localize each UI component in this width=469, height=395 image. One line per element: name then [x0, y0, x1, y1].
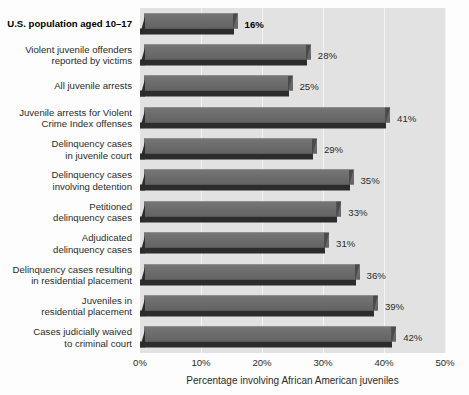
bar-top-face: [144, 139, 317, 154]
bar-row: Juvenile arrests for Violent Crime Index…: [0, 102, 469, 133]
bar-front-face: [140, 342, 392, 348]
x-tick-label: 10%: [191, 357, 210, 368]
x-axis-title: Percentage involving African American ju…: [140, 375, 445, 386]
bar-value-label: 25%: [300, 81, 319, 92]
category-label: All juvenile arrests: [0, 81, 132, 92]
bar-value-label: 31%: [336, 238, 355, 249]
bar: [140, 107, 390, 128]
bar-value-label: 35%: [361, 175, 380, 186]
category-label: Delinquency cases involving detention: [0, 169, 132, 192]
category-label: Adjudicated delinquency cases: [0, 232, 132, 255]
x-tick-label: 30%: [313, 357, 332, 368]
bar: [140, 139, 317, 160]
category-label: Violent juvenile offenders reported by v…: [0, 44, 132, 67]
bar: [140, 327, 396, 348]
category-label: Delinquency cases resulting in residenti…: [0, 263, 132, 286]
bar-top-face: [144, 233, 329, 248]
category-label: Juvenile arrests for Violent Crime Index…: [0, 106, 132, 129]
bar: [140, 45, 311, 66]
bar: [140, 201, 341, 222]
bar: [140, 13, 238, 34]
bar-front-face: [140, 185, 350, 191]
bar-front-face: [140, 279, 356, 285]
bar-value-label: 36%: [367, 269, 386, 280]
bar-row: Petitioned delinquency cases33%: [0, 196, 469, 227]
x-tick-label: 20%: [252, 357, 271, 368]
bar-front-face: [140, 60, 307, 66]
bar-value-label: 33%: [348, 206, 367, 217]
bar-row: Juveniles in residential placement39%: [0, 290, 469, 321]
bar-value-label: 39%: [385, 300, 404, 311]
bar-front-face: [140, 91, 289, 97]
x-tick-label: 50%: [435, 357, 454, 368]
bar-top-face: [144, 76, 293, 91]
bar-top-face: [144, 264, 360, 279]
bar-row: Delinquency cases involving detention35%: [0, 165, 469, 196]
bar: [140, 233, 329, 254]
bar-row: Adjudicated delinquency cases31%: [0, 228, 469, 259]
bar-top-face: [144, 295, 378, 310]
bar-row: Delinquency cases in juvenile court29%: [0, 133, 469, 164]
bar-chart-figure: U.S. population aged 10–1716%Violent juv…: [0, 0, 469, 395]
bar-top-face: [144, 13, 238, 28]
bar-top-face: [144, 45, 311, 60]
bar-row: Violent juvenile offenders reported by v…: [0, 39, 469, 70]
bar-row: Delinquency cases resulting in residenti…: [0, 259, 469, 290]
bar: [140, 264, 360, 285]
x-tick-label: 40%: [374, 357, 393, 368]
bar-top-face: [144, 170, 354, 185]
bar-top-face: [144, 107, 390, 122]
x-tick-label: 0%: [133, 357, 147, 368]
bar-front-face: [140, 28, 234, 34]
category-label: Petitioned delinquency cases: [0, 200, 132, 223]
bar-value-label: 29%: [324, 144, 343, 155]
bar-value-label: 16%: [245, 18, 264, 29]
category-label: Delinquency cases in juvenile court: [0, 138, 132, 161]
bar: [140, 76, 293, 97]
bar-value-label: 41%: [397, 112, 416, 123]
bar-row: Cases judicially waived to criminal cour…: [0, 322, 469, 353]
bar-value-label: 28%: [318, 50, 337, 61]
bar-front-face: [140, 216, 337, 222]
bar-front-face: [140, 310, 374, 316]
bar-top-face: [144, 201, 341, 216]
bar-value-label: 42%: [403, 332, 422, 343]
bar: [140, 295, 378, 316]
bar-top-face: [144, 327, 396, 342]
category-label: Juveniles in residential placement: [0, 295, 132, 318]
bar-front-face: [140, 154, 313, 160]
bar-front-face: [140, 248, 325, 254]
bar-row: All juvenile arrests25%: [0, 71, 469, 102]
category-label: U.S. population aged 10–17: [0, 18, 132, 29]
category-label: Cases judicially waived to criminal cour…: [0, 326, 132, 349]
bar-row: U.S. population aged 10–1716%: [0, 8, 469, 39]
bar-front-face: [140, 122, 386, 128]
bar: [140, 170, 354, 191]
